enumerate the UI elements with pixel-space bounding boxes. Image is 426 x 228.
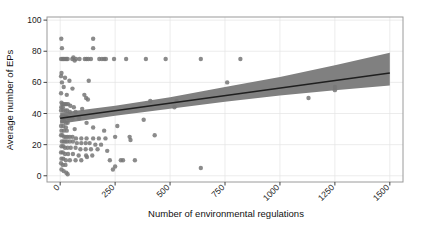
y-tick-label: 40 bbox=[32, 109, 42, 119]
y-tick-label: 60 bbox=[32, 77, 42, 87]
y-axis-title: Average number of EPs bbox=[4, 49, 15, 150]
y-tick-label: 80 bbox=[32, 46, 42, 56]
y-tick-label: 100 bbox=[27, 15, 41, 25]
x-axis-title: Number of environmental regulations bbox=[148, 208, 304, 219]
scatter-plot: 0250500750100012501500 020406080100 Numb… bbox=[0, 0, 426, 228]
y-tick-label: 0 bbox=[37, 171, 42, 181]
chart-figure: 0250500750100012501500 020406080100 Numb… bbox=[0, 0, 426, 228]
y-tick-label: 20 bbox=[32, 140, 42, 150]
